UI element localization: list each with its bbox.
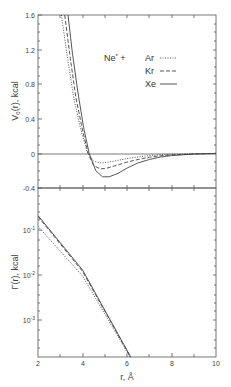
top-y-axis-title: V0(r), kcal bbox=[10, 81, 21, 120]
legend-label-xe: Xe bbox=[145, 79, 156, 89]
top-panel: 1.6 1.2 0.8 0.4 0 -0.4 V0(r), kcal Ne* +… bbox=[10, 12, 216, 192]
legend-label-kr: Kr bbox=[145, 66, 154, 76]
legend-label-ar: Ar bbox=[145, 53, 154, 63]
top-curves bbox=[61, 15, 216, 177]
x-axis-title: r, Å bbox=[120, 372, 134, 382]
ytick-label-1e-3: 10-3 bbox=[23, 315, 35, 324]
xtick-label: 2 bbox=[36, 360, 40, 367]
legend: Ne* + Ar Kr Xe bbox=[104, 53, 177, 89]
ytick-label: 0.4 bbox=[25, 116, 35, 123]
ytick-label-1e-2: 10-2 bbox=[23, 270, 35, 279]
bottom-panel-frame bbox=[38, 188, 216, 357]
top-x-ticks bbox=[60, 15, 194, 191]
bottom-x-ticks bbox=[60, 353, 194, 357]
xtick-label: 10 bbox=[212, 360, 220, 367]
ytick-label: 0 bbox=[31, 151, 35, 158]
curve-ne-xe bbox=[68, 15, 216, 177]
legend-prefix: Ne* + bbox=[104, 53, 126, 63]
xtick-label: 6 bbox=[125, 360, 129, 367]
figure: 1.6 1.2 0.8 0.4 0 -0.4 V0(r), kcal Ne* +… bbox=[0, 0, 231, 387]
ytick-label: -0.4 bbox=[23, 185, 35, 192]
top-y-tick-labels: 1.6 1.2 0.8 0.4 0 -0.4 bbox=[23, 12, 35, 192]
bottom-y-axis-title: Γ(r), kcal bbox=[10, 255, 20, 290]
x-tick-labels: 2 4 6 8 10 bbox=[36, 360, 220, 367]
xtick-label: 8 bbox=[170, 360, 174, 367]
ytick-label: 0.8 bbox=[25, 81, 35, 88]
ytick-label: 1.6 bbox=[25, 12, 35, 19]
curve-ne-ar bbox=[61, 15, 216, 163]
xtick-label: 4 bbox=[81, 360, 85, 367]
ytick-label-1e-1: 10-1 bbox=[23, 225, 35, 234]
bottom-panel: 10-1 10-2 10-3 Γ(r), kcal 2 4 6 8 10 r, … bbox=[10, 188, 220, 382]
ytick-label: 1.2 bbox=[25, 47, 35, 54]
bottom-y-ticks bbox=[38, 196, 216, 348]
bottom-y-tick-labels: 10-1 10-2 10-3 bbox=[23, 225, 35, 324]
